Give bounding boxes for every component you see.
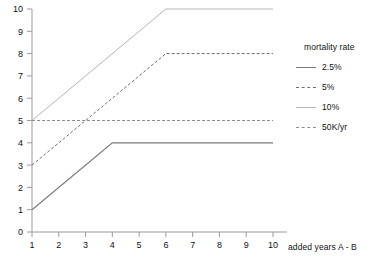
legend-entries: 2.5%5%10%50K/yr bbox=[296, 63, 376, 131]
x-tick-label: 3 bbox=[83, 240, 88, 250]
legend-item-label: 50K/yr bbox=[322, 122, 347, 132]
legend-item-label: 2.5% bbox=[322, 62, 342, 72]
y-tick-label: 4 bbox=[18, 138, 23, 148]
legend-line-swatch bbox=[296, 104, 316, 111]
y-tick-label: 6 bbox=[18, 94, 23, 104]
y-tick-label: 3 bbox=[18, 161, 23, 171]
y-tick-label: 8 bbox=[18, 49, 23, 59]
series-line-2-5- bbox=[32, 143, 273, 210]
x-axis-label: added years A - B bbox=[288, 242, 357, 252]
x-tick-label: 1 bbox=[29, 240, 34, 250]
legend-line-swatch bbox=[296, 84, 316, 91]
series-line-5- bbox=[32, 54, 273, 166]
chart-container: 012345678910 12345678910 added years A -… bbox=[0, 0, 376, 260]
x-tick-label: 5 bbox=[137, 240, 142, 250]
y-tick-label: 2 bbox=[18, 183, 23, 193]
x-tick-label: 6 bbox=[163, 240, 168, 250]
legend-line-swatch bbox=[296, 64, 316, 71]
y-axis-ticks: 012345678910 bbox=[13, 4, 32, 237]
y-tick-label: 9 bbox=[18, 27, 23, 37]
x-tick-label: 2 bbox=[56, 240, 61, 250]
legend-line-swatch bbox=[296, 124, 316, 131]
legend-item-label: 10% bbox=[322, 102, 339, 112]
y-tick-label: 0 bbox=[18, 227, 23, 237]
y-tick-label: 7 bbox=[18, 71, 23, 81]
x-tick-label: 9 bbox=[244, 240, 249, 250]
x-tick-label: 7 bbox=[190, 240, 195, 250]
y-axis: 012345678910 bbox=[13, 4, 32, 237]
y-tick-label: 1 bbox=[18, 205, 23, 215]
legend-item-2-5-[interactable]: 2.5% bbox=[296, 63, 376, 71]
x-axis-ticks: 12345678910 bbox=[29, 232, 278, 250]
y-tick-label: 5 bbox=[18, 116, 23, 126]
legend-item-5-[interactable]: 5% bbox=[296, 83, 376, 91]
x-tick-label: 8 bbox=[217, 240, 222, 250]
x-tick-label: 4 bbox=[110, 240, 115, 250]
x-tick-label: 10 bbox=[268, 240, 278, 250]
x-axis: 12345678910 bbox=[29, 232, 287, 250]
y-tick-label: 10 bbox=[13, 4, 23, 14]
legend-item-50k-yr[interactable]: 50K/yr bbox=[296, 123, 376, 131]
legend-item-10-[interactable]: 10% bbox=[296, 103, 376, 111]
chart-legend: mortality rate 2.5%5%10%50K/yr bbox=[296, 42, 376, 143]
legend-item-label: 5% bbox=[322, 82, 335, 92]
legend-title: mortality rate bbox=[304, 42, 376, 52]
data-series-layer bbox=[32, 9, 273, 210]
